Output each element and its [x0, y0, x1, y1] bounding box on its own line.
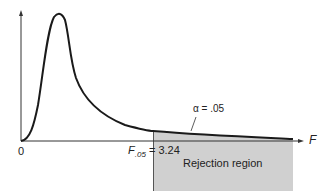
critical-value-label: F.05 = 3.24 — [128, 145, 180, 159]
alpha-label: α = .05 — [193, 104, 224, 114]
y-axis-arrow-icon — [19, 10, 23, 16]
f-axis-label: F — [309, 134, 316, 146]
crit-symbol: F — [128, 144, 135, 156]
density-curve — [21, 14, 293, 141]
x-axis-arrow-icon — [298, 139, 304, 143]
origin-label: 0 — [18, 146, 24, 157]
f-distribution-chart — [0, 0, 328, 191]
crit-subscript: .05 — [135, 150, 146, 159]
alpha-pointer — [191, 117, 196, 131]
rejection-region-label: Rejection region — [183, 158, 263, 169]
crit-value: = 3.24 — [146, 144, 180, 156]
